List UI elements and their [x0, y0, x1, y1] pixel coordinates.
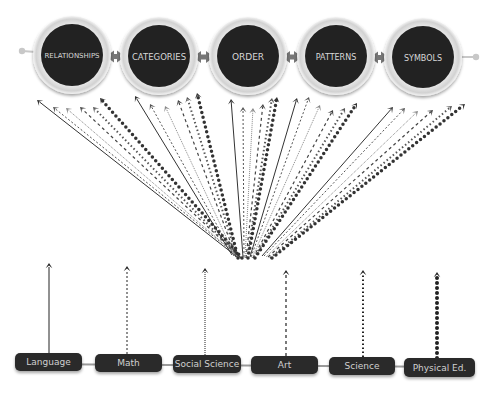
- concept-label: RELATIONSHIPS: [44, 52, 100, 60]
- fan-arrow-line: [264, 110, 403, 256]
- subject-label: Language: [26, 357, 71, 367]
- subject-box-science: Science: [329, 357, 395, 375]
- concept-node-categories: CATEGORIES: [120, 17, 198, 95]
- subject-label: Physical Ed.: [413, 363, 467, 373]
- subject-box-physical-ed: Physical Ed.: [404, 358, 475, 377]
- fan-arrow-line: [151, 107, 234, 256]
- fan-arrow-line: [95, 109, 241, 258]
- fan-arrow-line: [268, 112, 431, 257]
- concept-label: PATTERNS: [316, 53, 356, 62]
- concept-circles: RELATIONSHIPSCATEGORIESORDERPATTERNSSYMB…: [33, 16, 462, 96]
- fan-arrow-line: [270, 108, 450, 258]
- fan-group-symbols: [262, 104, 465, 258]
- left-end-dot: [19, 48, 25, 54]
- arrowhead-icon: [283, 270, 290, 275]
- concept-diagram: RELATIONSHIPSCATEGORIESORDERPATTERNSSYMB…: [0, 0, 490, 393]
- concept-node-patterns: PATTERNS: [297, 17, 375, 95]
- fan-arrow-line: [82, 109, 240, 257]
- arrowhead-icon: [150, 104, 156, 110]
- arrowhead-icon: [164, 106, 170, 112]
- subject-label: Social Science: [175, 359, 240, 369]
- fan-group-categories: [135, 93, 238, 258]
- arrowhead-icon: [124, 266, 131, 271]
- fan-arrow-line: [198, 96, 238, 258]
- fan-arrow-line: [246, 107, 263, 258]
- subject-label: Math: [117, 358, 140, 368]
- fan-arrows: [37, 93, 465, 258]
- fan-arrow-line: [255, 106, 355, 258]
- fan-arrow-line: [266, 113, 416, 257]
- concept-label: SYMBOLS: [404, 54, 442, 63]
- fan-arrow-line: [102, 100, 242, 258]
- concept-node-relationships: RELATIONSHIPS: [33, 16, 111, 94]
- right-end-dot: [473, 54, 479, 60]
- subject-label: Art: [278, 360, 292, 370]
- subject-box-social-science: Social Science: [173, 355, 241, 373]
- concept-label: ORDER: [232, 52, 264, 62]
- arrowhead-icon: [315, 105, 321, 111]
- arrowhead-icon: [177, 100, 183, 106]
- concept-label: CATEGORIES: [132, 52, 186, 62]
- fan-arrow-line: [253, 113, 332, 258]
- arrowhead-icon: [249, 108, 256, 113]
- fan-arrow-line: [262, 109, 391, 256]
- fan-arrow-line: [39, 102, 236, 256]
- subject-timeline: [20, 364, 470, 367]
- fan-group-relationships: [37, 98, 242, 258]
- arrowhead-icon: [360, 270, 367, 275]
- subject-box-art: Art: [251, 356, 318, 374]
- subject-box-language: Language: [15, 353, 82, 371]
- subject-box-math: Math: [95, 354, 162, 372]
- subject-label: Science: [345, 361, 380, 371]
- subject-arrows: [46, 263, 441, 358]
- concept-node-symbols: SYMBOLS: [384, 18, 462, 96]
- fan-arrow-line: [245, 111, 253, 258]
- concept-node-order: ORDER: [209, 17, 287, 95]
- fan-arrow-line: [243, 110, 244, 257]
- fan-arrow-line: [188, 100, 237, 257]
- fan-arrow-line: [55, 109, 238, 256]
